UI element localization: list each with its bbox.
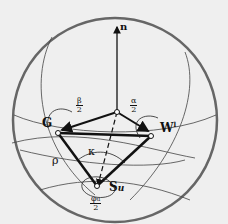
center-to-g (62, 112, 117, 130)
sphere-diagram: n G Wl Su κ ρ β 2 α 2 φu 2 (0, 0, 228, 224)
beta-half-label: β 2 (76, 97, 83, 114)
center-to-w (117, 112, 148, 131)
vertex-center (115, 110, 120, 115)
vertex-w-label: Wl (160, 121, 176, 134)
center-to-s (98, 112, 117, 185)
vertex-s-dot (95, 184, 100, 189)
phi-half-label: φu 2 (90, 195, 101, 212)
kappa-label: κ (88, 146, 95, 157)
vertex-s-label: Su (109, 181, 124, 193)
kappa-arc (78, 152, 125, 163)
vertex-g-label: G (42, 117, 52, 129)
alpha-half-label: α 2 (130, 97, 137, 114)
vertex-w-dot (149, 134, 154, 139)
normal-label: n (120, 22, 127, 32)
vertex-g-dot (56, 131, 61, 136)
rho-label: ρ (52, 155, 58, 166)
